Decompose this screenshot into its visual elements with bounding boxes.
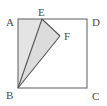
label-f: F xyxy=(64,30,70,42)
label-b: B xyxy=(6,89,13,101)
label-c: C xyxy=(92,90,99,102)
label-d: D xyxy=(92,16,100,28)
label-e: E xyxy=(38,6,45,18)
label-a: A xyxy=(6,16,14,28)
geometry-figure: A D B C E F xyxy=(0,0,107,106)
geometry-canvas: A D B C E F xyxy=(0,0,107,106)
